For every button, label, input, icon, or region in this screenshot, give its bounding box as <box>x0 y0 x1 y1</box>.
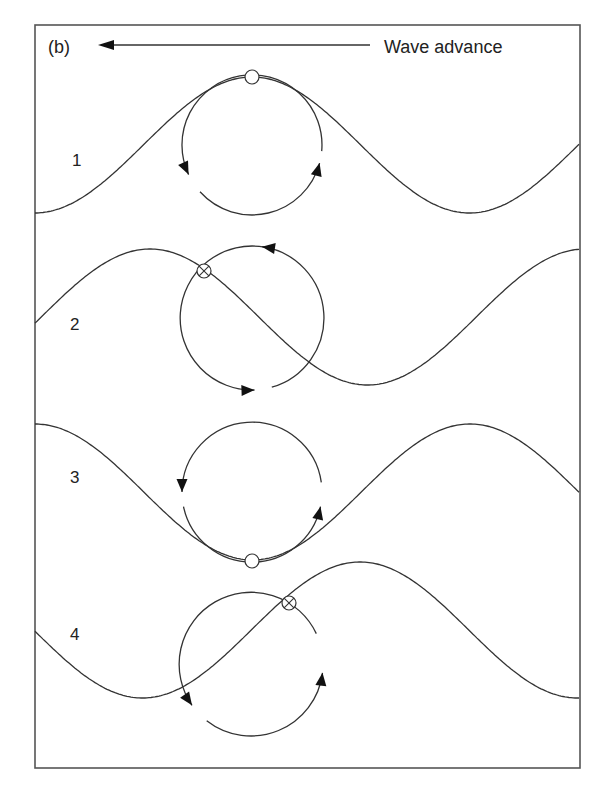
orbit-arc <box>200 163 320 215</box>
orbit-arrow-icon <box>241 385 254 396</box>
particle-marker <box>197 264 211 278</box>
orbit-arrow-icon <box>315 673 326 687</box>
panel-number-label: 4 <box>70 625 79 644</box>
orbit-arrow-icon <box>262 243 276 254</box>
panel-number-label: 2 <box>70 315 79 334</box>
orbit-arc <box>182 422 321 492</box>
orbit-arrow-icon <box>312 507 323 521</box>
particle-circle-icon <box>245 70 259 84</box>
orbit-arrow-icon <box>177 479 188 492</box>
orbit-arrow-icon <box>311 163 322 177</box>
panel-number-label: 1 <box>72 151 81 170</box>
orbit-arrow-icon <box>178 161 189 175</box>
arrow-left-icon <box>98 40 114 50</box>
panel-2: 2 <box>35 243 579 396</box>
panel-3: 3 <box>35 422 579 568</box>
wave-profile <box>35 562 579 698</box>
wave-profile <box>35 424 579 560</box>
orbit-arc <box>207 673 323 736</box>
particle-circle-icon <box>245 554 259 568</box>
orbit-arc <box>180 246 264 390</box>
panel-4: 4 <box>35 562 579 736</box>
orbit-arc <box>182 75 322 175</box>
figure-frame <box>35 25 580 768</box>
wave-profile <box>35 77 579 213</box>
particle-marker <box>282 596 296 610</box>
particle-marker <box>245 554 259 568</box>
wave-orbit-diagram: (b) Wave advance 1234 <box>0 0 609 795</box>
particle-marker <box>245 70 259 84</box>
orbit-arc <box>179 592 316 705</box>
panel-number-label: 3 <box>70 468 79 487</box>
direction-label: Wave advance <box>384 37 502 57</box>
direction-arrow <box>98 40 370 50</box>
panel-label: (b) <box>48 37 70 57</box>
panels: 1234 <box>35 70 579 736</box>
panel-1: 1 <box>35 70 579 215</box>
